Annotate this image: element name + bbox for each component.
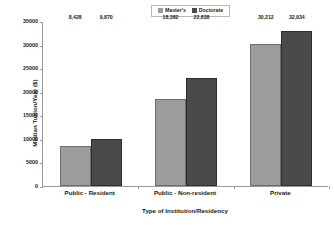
legend-label: Master's bbox=[165, 8, 186, 13]
y-axis-tick-label: 25000 bbox=[23, 66, 38, 71]
bar-group: 8,4289,870 bbox=[43, 22, 138, 186]
bar-value-label: 8,428 bbox=[69, 15, 82, 20]
bar-value-label: 32,934 bbox=[289, 15, 305, 20]
y-axis-tick bbox=[40, 187, 43, 188]
bar-chart: Master'sDoctorate 0500010000150002000025… bbox=[0, 0, 334, 225]
x-axis-category-label: Public - Non-resident bbox=[137, 190, 232, 196]
x-axis-tick bbox=[234, 186, 235, 189]
bar: 22,838 bbox=[186, 78, 217, 186]
bar-column: 8,428 bbox=[60, 22, 91, 186]
bar: 30,212 bbox=[250, 44, 281, 186]
y-axis-tick-label: 30000 bbox=[23, 43, 38, 48]
bar-column: 22,838 bbox=[186, 22, 217, 186]
bar-column: 32,934 bbox=[281, 22, 312, 186]
bar-value-label: 18,382 bbox=[163, 15, 179, 20]
bar: 32,934 bbox=[281, 31, 312, 186]
x-axis-category-label: Public - Resident bbox=[42, 190, 137, 196]
bar-value-label: 9,870 bbox=[100, 15, 113, 20]
bar: 9,870 bbox=[91, 139, 122, 186]
bar-group: 18,38222,838 bbox=[138, 22, 233, 186]
legend-swatch-icon bbox=[192, 8, 197, 13]
legend-entry-0: Master's bbox=[158, 8, 186, 13]
bar-value-label: 30,212 bbox=[258, 15, 274, 20]
plot-area: 050001000015000200002500030000350008,428… bbox=[42, 22, 328, 187]
x-axis-category-label: Private bbox=[233, 190, 328, 196]
bar-column: 18,382 bbox=[155, 22, 186, 186]
x-axis-title: Type of Institution/Residency bbox=[42, 208, 328, 214]
legend-label: Doctorate bbox=[199, 8, 223, 13]
y-axis-tick-label: 35000 bbox=[23, 19, 38, 24]
y-axis-tick-label: 0 bbox=[35, 184, 38, 189]
bar-group: 30,21232,934 bbox=[234, 22, 329, 186]
y-axis-title: Median Tuition/Year ($) bbox=[32, 79, 38, 146]
legend-swatch-icon bbox=[158, 8, 163, 13]
bar-value-label: 22,838 bbox=[194, 15, 210, 20]
x-axis-tick bbox=[138, 186, 139, 189]
bar: 8,428 bbox=[60, 146, 91, 186]
x-axis-tick bbox=[329, 186, 330, 189]
y-axis-tick-label: 5000 bbox=[26, 161, 38, 166]
legend-entry-1: Doctorate bbox=[192, 8, 223, 13]
bar-column: 30,212 bbox=[250, 22, 281, 186]
bar: 18,382 bbox=[155, 99, 186, 186]
bar-column: 9,870 bbox=[91, 22, 122, 186]
